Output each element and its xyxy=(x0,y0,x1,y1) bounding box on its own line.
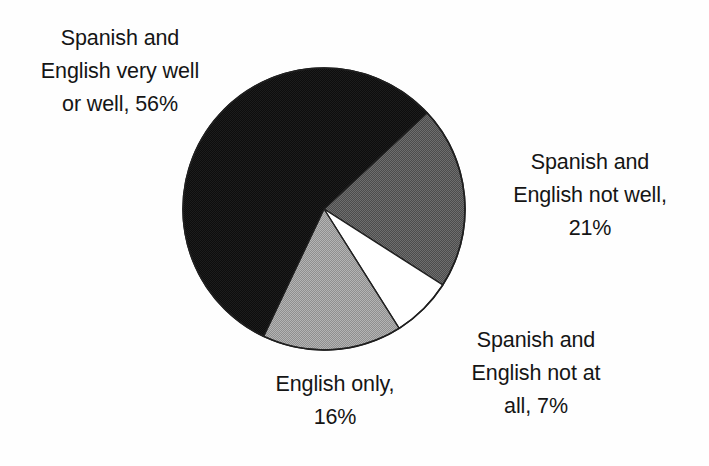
pie-label-spanish-english-very-well: Spanish and English very well or well, 5… xyxy=(8,22,232,121)
pie-label-spanish-english-not-at-all: Spanish and English not at all, 7% xyxy=(432,324,640,423)
pie-label-english-only: English only, 16% xyxy=(240,368,430,434)
pie-chart-figure: Spanish and English very well or well, 5… xyxy=(0,0,709,466)
pie-label-spanish-english-not-well: Spanish and English not well, 21% xyxy=(480,146,700,245)
